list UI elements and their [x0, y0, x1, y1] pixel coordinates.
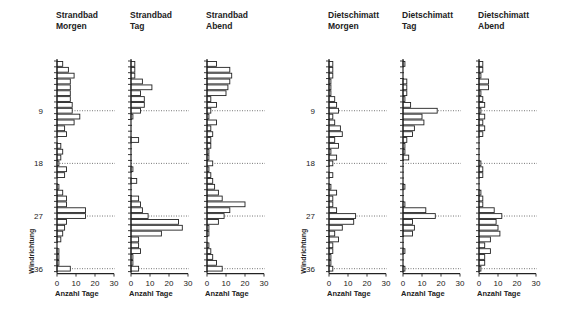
bar — [403, 155, 409, 160]
x-axis-label: Anzahl Tage — [327, 289, 371, 298]
bar — [479, 237, 490, 242]
bar — [207, 62, 217, 67]
x-tick-label: 20 — [363, 279, 372, 288]
bar — [131, 79, 142, 84]
bar — [57, 114, 80, 119]
bar — [131, 97, 144, 102]
bar — [403, 126, 414, 131]
bar — [207, 190, 218, 195]
bar — [207, 260, 217, 265]
bar — [329, 225, 342, 230]
bar — [57, 108, 72, 113]
bar — [57, 73, 74, 78]
bar — [329, 143, 339, 148]
x-tick-label: 10 — [146, 279, 155, 288]
bar — [131, 231, 161, 236]
bar — [207, 184, 215, 189]
panel-title: Tag — [130, 21, 144, 31]
x-axis-label: Anzahl Tage — [55, 289, 99, 298]
bar — [57, 231, 63, 236]
x-tick-label: 10 — [222, 279, 231, 288]
x-tick-label: 20 — [241, 279, 250, 288]
bar — [57, 91, 70, 96]
bar — [403, 208, 426, 213]
panel-strandbad-abend: StrandbadAbend0102030Anzahl Tage — [204, 10, 269, 298]
bar — [57, 167, 67, 172]
x-tick-label: 20 — [91, 279, 100, 288]
x-tick-label: 30 — [260, 279, 269, 288]
bar — [131, 138, 139, 143]
bar — [403, 102, 411, 107]
bar — [479, 126, 485, 131]
bar — [329, 237, 339, 242]
bar — [479, 243, 485, 248]
x-tick-label: 10 — [344, 279, 353, 288]
bar — [57, 132, 67, 137]
x-tick-label: 30 — [532, 279, 541, 288]
y-tick-label: 36 — [34, 265, 43, 274]
panel-title: Dietschimatt — [402, 10, 453, 20]
bar — [57, 214, 86, 219]
bar — [57, 225, 65, 230]
x-tick-label: 0 — [55, 279, 60, 288]
bar — [131, 237, 139, 242]
bar — [329, 132, 342, 137]
bar — [57, 120, 74, 125]
bar — [207, 85, 228, 90]
x-axis-label: Anzahl Tage — [477, 289, 521, 298]
panel-title: Tag — [402, 21, 416, 31]
y-axis-label: Windrichtung — [28, 229, 36, 274]
x-tick-label: 0 — [205, 279, 210, 288]
bar — [57, 190, 63, 195]
bar — [207, 73, 232, 78]
bar — [131, 91, 141, 96]
bar — [329, 138, 335, 143]
y-tick-label: 18 — [34, 159, 43, 168]
panel-title: Abend — [478, 21, 504, 31]
panel-title: Dietschimatt — [328, 10, 379, 20]
bar — [207, 208, 230, 213]
x-tick-label: 30 — [382, 279, 391, 288]
bar — [403, 120, 424, 125]
bar — [131, 219, 179, 224]
x-tick-label: 10 — [72, 279, 81, 288]
bar — [329, 219, 354, 224]
bar — [57, 266, 70, 271]
bar — [329, 126, 340, 131]
panel-title: Strandbad — [130, 10, 172, 20]
bar — [57, 97, 70, 102]
bar — [403, 108, 437, 113]
x-tick-label: 20 — [513, 279, 522, 288]
x-axis-label: Anzahl Tage — [205, 289, 249, 298]
x-tick-label: 30 — [456, 279, 465, 288]
bar — [479, 114, 485, 119]
panel-dietschimatt-morgen: DietschimattMorgen0102030Anzahl Tage9182… — [300, 10, 391, 298]
bar — [403, 214, 435, 219]
x-tick-label: 30 — [110, 279, 119, 288]
panel-strandbad-morgen: StrandbadMorgen0102030Anzahl Tage9182736… — [28, 10, 119, 298]
panel-title: Abend — [206, 21, 232, 31]
bar — [131, 85, 152, 90]
bar — [403, 114, 422, 119]
bar — [403, 225, 414, 230]
bar — [207, 219, 218, 224]
bar — [57, 79, 70, 84]
x-tick-label: 20 — [165, 279, 174, 288]
bar — [479, 79, 489, 84]
bar — [131, 179, 137, 184]
bar — [479, 85, 489, 90]
panel-title: Strandbad — [56, 10, 98, 20]
bar — [207, 214, 224, 219]
bar — [131, 266, 139, 271]
bar — [207, 255, 213, 260]
bar — [207, 67, 230, 72]
panel-title: Morgen — [56, 21, 87, 31]
bar — [479, 225, 498, 230]
bar — [57, 67, 68, 72]
bar — [207, 102, 217, 107]
bar — [403, 219, 413, 224]
bar — [207, 120, 217, 125]
y-axis-label: Windrichtung — [300, 229, 308, 274]
panel-title: Strandbad — [206, 10, 248, 20]
bar — [329, 214, 356, 219]
